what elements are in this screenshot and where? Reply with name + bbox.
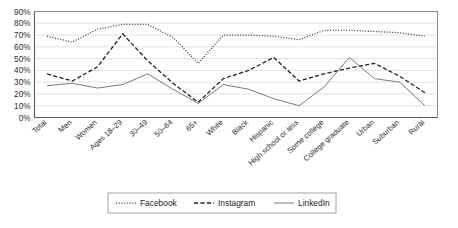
x-axis-tick-label: Urban — [354, 118, 375, 139]
legend-label-facebook[interactable]: Facebook — [140, 198, 178, 208]
x-axis-tick-label: 65+ — [184, 117, 200, 133]
x-axis-tick-label: College graduate — [302, 118, 351, 163]
x-axis-tick-label: Total — [30, 118, 48, 136]
y-axis-tick-label: 90% — [14, 8, 30, 17]
line-chart: 90%80%70%60%50%40%30%20%10%0% TotalMenWo… — [0, 0, 458, 228]
y-axis-tick-label: 60% — [14, 43, 30, 52]
x-axis-tick-label: 50–64 — [153, 118, 175, 139]
chart-container: 90%80%70%60%50%40%30%20%10%0% TotalMenWo… — [0, 0, 458, 228]
x-axis-tick-label: White — [204, 118, 224, 138]
legend-label-linkedin[interactable]: LinkedIn — [298, 198, 330, 208]
x-axis-tick-label: 30–49 — [127, 118, 149, 139]
plot-area-border — [35, 12, 438, 118]
series-line-instagram — [47, 34, 425, 102]
y-axis-tick-label: 50% — [14, 55, 30, 64]
y-axis-tick-label: 70% — [14, 31, 30, 40]
x-axis-tick-labels: TotalMenWomenAges 18–2930–4950–6465+Whit… — [30, 117, 426, 167]
x-axis-tick-label: Suburban — [371, 118, 401, 147]
y-axis-tick-label: 20% — [14, 90, 30, 99]
gridlines — [35, 12, 438, 118]
legend-label-instagram[interactable]: Instagram — [218, 198, 255, 208]
series-line-facebook — [47, 24, 425, 63]
x-axis-tick-label: Rural — [407, 118, 427, 137]
y-axis-tick-labels: 90%80%70%60%50%40%30%20%10%0% — [14, 8, 30, 123]
y-axis-tick-label: 80% — [14, 19, 30, 28]
y-axis-tick-label: 0% — [19, 114, 31, 123]
chart-legend: FacebookInstagramLinkedIn — [108, 193, 336, 213]
y-axis-tick-label: 40% — [14, 66, 30, 75]
x-axis-tick-label: Men — [57, 118, 74, 135]
y-axis-tick-label: 30% — [14, 78, 30, 87]
x-axis-tick-label: Black — [230, 118, 250, 137]
data-series-group — [47, 24, 425, 105]
plot-frame — [35, 12, 438, 118]
y-axis-tick-label: 10% — [14, 102, 30, 111]
